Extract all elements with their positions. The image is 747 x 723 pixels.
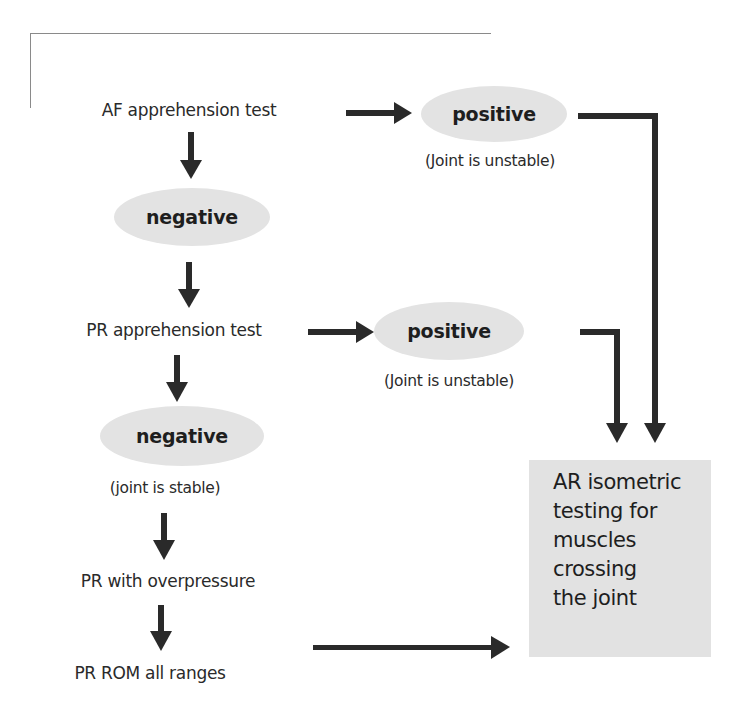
af-positive-note: (Joint is unstable) bbox=[425, 152, 555, 170]
pr-positive-oval: positive bbox=[374, 302, 524, 360]
frame-top-border bbox=[30, 33, 491, 34]
af-positive-label: positive bbox=[452, 103, 536, 125]
pr-positive-note: (Joint is unstable) bbox=[384, 372, 514, 390]
result-line-3: muscles bbox=[553, 526, 711, 555]
af-apprehension-test-label: AF apprehension test bbox=[102, 100, 277, 120]
result-line-2: testing for bbox=[553, 497, 711, 526]
pr-positive-label: positive bbox=[407, 320, 491, 342]
flowchart-diagram: AF apprehension test positive (Joint is … bbox=[0, 0, 747, 723]
result-line-1: AR isometric bbox=[553, 468, 711, 497]
right-arrow-icon bbox=[346, 102, 412, 124]
frame-left-border bbox=[30, 33, 31, 108]
down-arrow-icon bbox=[180, 132, 202, 179]
pr-with-overpressure-label: PR with overpressure bbox=[81, 571, 255, 591]
ar-isometric-testing-box: AR isometric testing for muscles crossin… bbox=[529, 460, 711, 657]
pr-negative-oval: negative bbox=[100, 406, 264, 466]
pr-negative-note: (joint is stable) bbox=[110, 479, 221, 497]
pr-negative-label: negative bbox=[136, 425, 228, 447]
af-negative-label: negative bbox=[146, 206, 238, 228]
right-arrow-icon bbox=[308, 321, 374, 343]
down-arrow-icon bbox=[178, 262, 200, 308]
result-line-5: the joint bbox=[553, 584, 711, 613]
elbow-connector-arrow-icon bbox=[578, 113, 666, 443]
down-arrow-icon bbox=[166, 355, 188, 402]
result-line-4: crossing bbox=[553, 555, 711, 584]
elbow-connector-arrow-icon bbox=[580, 329, 628, 443]
af-negative-oval: negative bbox=[114, 188, 270, 246]
af-positive-oval: positive bbox=[421, 86, 567, 142]
down-arrow-icon bbox=[150, 605, 172, 651]
down-arrow-icon bbox=[153, 513, 175, 560]
pr-apprehension-test-label: PR apprehension test bbox=[86, 320, 261, 340]
pr-rom-all-ranges-label: PR ROM all ranges bbox=[74, 663, 225, 683]
right-arrow-icon bbox=[313, 636, 510, 659]
